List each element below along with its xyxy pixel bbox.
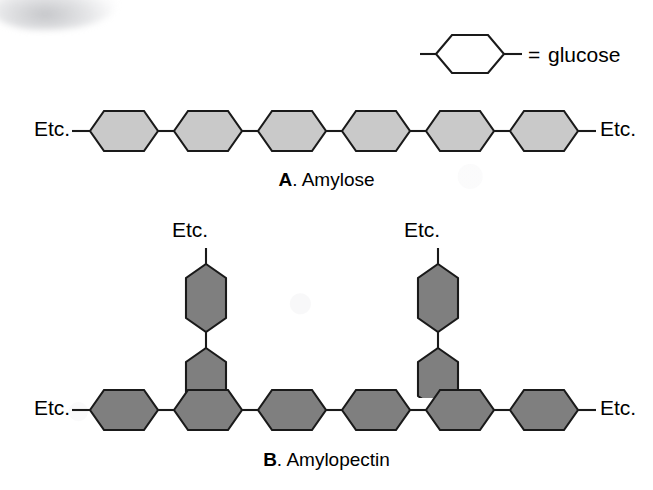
amylose-caption-letter: A <box>278 169 292 190</box>
glucose-unit <box>510 111 578 151</box>
glucose-unit <box>258 390 326 430</box>
glucose-unit <box>342 111 410 151</box>
amylose-left-etc-label: Etc. <box>34 118 70 139</box>
legend-equals-sign: = <box>528 44 540 65</box>
legend-glucose-label: glucose <box>548 44 620 65</box>
amylopectin-branch-2-etc-label: Etc. <box>404 219 440 240</box>
amylose-caption-separator: . <box>292 169 302 190</box>
amylopectin-main-chain <box>72 373 602 447</box>
amylopectin-left-etc-label: Etc. <box>34 397 70 418</box>
glucose-unit <box>426 111 494 151</box>
glucose-unit <box>258 111 326 151</box>
glucose-unit <box>510 390 578 430</box>
glucose-unit <box>90 111 158 151</box>
amylopectin-caption: B. Amylopectin <box>0 450 653 469</box>
amylopectin-caption-separator: . <box>277 449 287 470</box>
amylopectin-branch-1-etc-label: Etc. <box>172 219 208 240</box>
amylose-right-etc-label: Etc. <box>600 118 636 139</box>
legend-glucose-symbol <box>418 26 538 82</box>
glucose-unit <box>342 390 410 430</box>
amylopectin-caption-letter: B <box>263 449 277 470</box>
glucose-unit <box>90 390 158 430</box>
amylose-caption: A. Amylose <box>0 170 653 189</box>
amylopectin-right-etc-label: Etc. <box>600 397 636 418</box>
scan-artifact-smudge <box>0 0 116 30</box>
glucose-unit-branch-point <box>426 390 494 430</box>
amylopectin-caption-name: Amylopectin <box>286 449 390 470</box>
amylose-chain <box>72 94 602 168</box>
amylose-caption-name: Amylose <box>302 169 375 190</box>
starch-structure-figure: = glucose Etc. Etc. A. Amylose Etc. Etc. <box>0 0 653 490</box>
glucose-unit <box>186 264 226 332</box>
glucose-unit <box>174 111 242 151</box>
glucose-unit-branch-point <box>174 390 242 430</box>
glucose-unit <box>418 264 458 332</box>
